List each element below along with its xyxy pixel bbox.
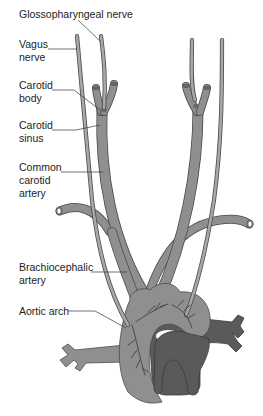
label-glossopharyngeal-nerve: Glossopharyngeal nerve — [19, 8, 133, 21]
label-common-carotid-artery: Common carotid artery — [19, 161, 62, 200]
label-brachiocephalic-artery: Brachiocephalic artery — [19, 261, 93, 287]
glossopharyngeal-nerve-left — [192, 40, 195, 100]
label-carotid-sinus: Carotid sinus — [19, 119, 53, 145]
left-pulmonary-branch — [60, 344, 125, 371]
right-subclavian-artery — [56, 207, 110, 232]
label-aortic-arch: Aortic arch — [19, 305, 69, 318]
label-vagus-nerve: Vagus nerve — [19, 38, 48, 64]
label-carotid-body: Carotid body — [19, 79, 53, 105]
